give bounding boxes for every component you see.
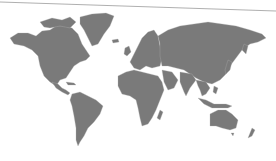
world-map-frame bbox=[0, 0, 276, 161]
region-indonesia bbox=[198, 98, 232, 108]
region-europe bbox=[130, 30, 162, 70]
region-south-america bbox=[70, 92, 103, 146]
region-philippines bbox=[213, 86, 218, 94]
region-iceland bbox=[112, 39, 119, 43]
region-british-isles bbox=[124, 46, 131, 56]
region-arabian-peninsula bbox=[162, 70, 178, 90]
region-australia bbox=[210, 110, 238, 130]
region-madagascar bbox=[157, 110, 163, 120]
region-new-zealand bbox=[248, 128, 255, 138]
region-caribbean bbox=[66, 82, 76, 85]
top-rule bbox=[0, 2, 276, 11]
region-arctic-islands bbox=[40, 17, 76, 28]
region-tasmania bbox=[231, 133, 234, 136]
region-greenland bbox=[80, 13, 114, 46]
world-map bbox=[0, 0, 276, 161]
region-north-america bbox=[10, 26, 90, 86]
